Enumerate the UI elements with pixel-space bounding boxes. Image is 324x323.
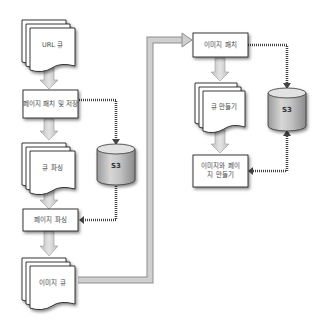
label-s3-right: S3 [268, 98, 306, 124]
label-page-parse: 페이지 파싱 [23, 209, 78, 231]
label-s3-left: S3 [97, 154, 135, 180]
label-image-fetch: 이미지 패치 [193, 33, 248, 57]
label-make-queue: 큐 만들기 [203, 93, 245, 121]
label-make-images-pages: 이미지와 페이지 만들기 [193, 155, 248, 187]
label-url-queue: URL 큐 [30, 30, 75, 60]
label-image-queue: 이미지 큐 [30, 268, 75, 298]
label-parse-queue: 큐 파싱 [30, 153, 75, 183]
diagram-canvas: URL 큐 페이지 패치 및 저장 큐 파싱 페이지 파싱 이미지 큐 S3 이… [0, 0, 324, 323]
label-fetch-store: 페이지 패치 및 저장 [23, 90, 78, 118]
